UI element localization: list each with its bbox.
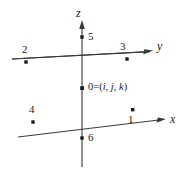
point-marker-3 [125, 57, 128, 60]
point-label-2: 2 [22, 44, 28, 55]
origin-marker [80, 86, 84, 90]
z-axis-arrowhead [79, 20, 85, 29]
x-axis-arrowhead [157, 118, 167, 123]
z-axis-label: z [76, 7, 81, 19]
point-marker-6 [80, 136, 83, 139]
point-label-5: 5 [88, 31, 94, 42]
origin-label-comma-2: , [114, 81, 117, 92]
point-label-3: 3 [120, 41, 126, 52]
x-axis-label: x [170, 113, 175, 125]
point-marker-4 [31, 120, 34, 123]
y-axis-line-full [12, 52, 150, 60]
y-axis-label: y [157, 40, 162, 52]
point-marker-2 [24, 60, 27, 63]
y-axis-arrowhead [143, 49, 153, 54]
point-label-6: 6 [88, 132, 94, 143]
origin-label: 0=(i, j, k) [88, 82, 127, 93]
point-label-1: 1 [128, 114, 134, 125]
origin-label-close-paren: ) [124, 81, 128, 92]
point-marker-1 [131, 108, 134, 111]
origin-label-comma-1: , [106, 81, 109, 92]
coordinate-axes-figure: z y x 1 2 3 4 5 6 0=(i, j, k) [0, 0, 183, 172]
point-label-4: 4 [29, 104, 35, 115]
point-marker-5 [80, 35, 83, 38]
